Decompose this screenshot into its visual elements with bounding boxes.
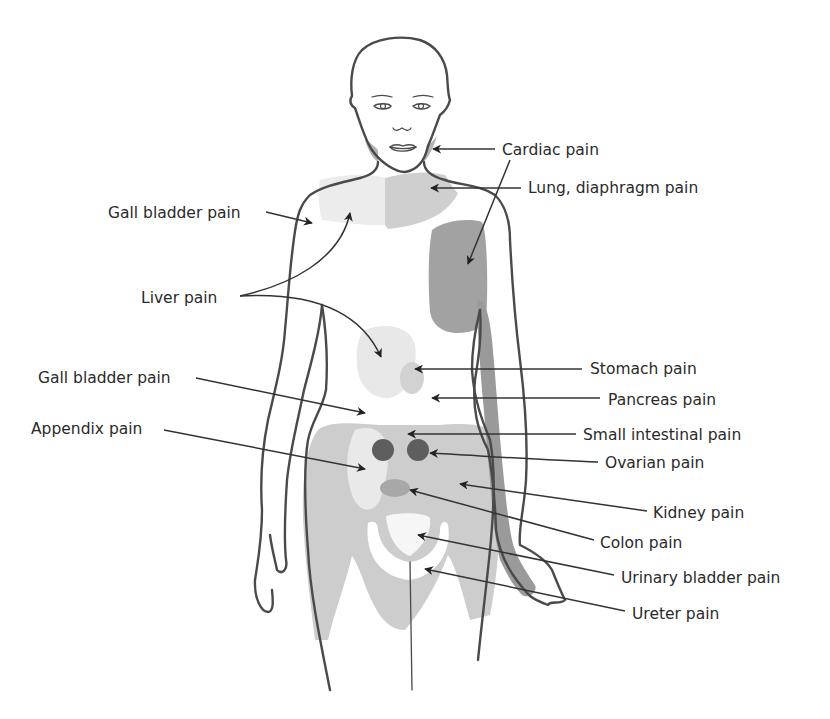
label-kidney: Kidney pain xyxy=(653,504,744,522)
right-arm-outer xyxy=(510,240,565,605)
colon-region xyxy=(380,479,410,497)
label-lung-diaphragm: Lung, diaphragm pain xyxy=(528,179,698,197)
head-outline xyxy=(350,38,450,150)
left-arm-outer xyxy=(255,225,296,612)
pain-regions xyxy=(303,136,536,640)
ovary-right xyxy=(407,439,429,461)
label-gall-bladder-upper: Gall bladder pain xyxy=(108,204,241,222)
leader-gall-lower xyxy=(196,378,365,413)
label-ovarian: Ovarian pain xyxy=(605,454,704,472)
label-appendix: Appendix pain xyxy=(31,420,142,438)
body-figure: Cardiac pain Lung, diaphragm pain Gall b… xyxy=(0,0,830,719)
label-gall-bladder-lower: Gall bladder pain xyxy=(38,369,171,387)
leader-gall-upper xyxy=(266,212,312,223)
stomach-region xyxy=(400,362,424,394)
face xyxy=(372,96,433,152)
jaw-outline xyxy=(372,146,428,172)
label-cardiac: Cardiac pain xyxy=(502,141,599,159)
label-small-intestine: Small intestinal pain xyxy=(583,426,741,444)
label-colon: Colon pain xyxy=(600,534,682,552)
leader-cardiac-chest xyxy=(468,160,510,264)
label-stomach: Stomach pain xyxy=(590,360,697,378)
label-pancreas: Pancreas pain xyxy=(608,391,716,409)
referred-pain-diagram: Cardiac pain Lung, diaphragm pain Gall b… xyxy=(0,0,830,719)
ovary-left xyxy=(372,439,394,461)
label-urinary-bladder: Urinary bladder pain xyxy=(621,569,780,587)
label-ureter: Ureter pain xyxy=(632,605,719,623)
label-liver: Liver pain xyxy=(141,289,217,307)
gall-bladder-shoulder-region xyxy=(319,175,385,225)
